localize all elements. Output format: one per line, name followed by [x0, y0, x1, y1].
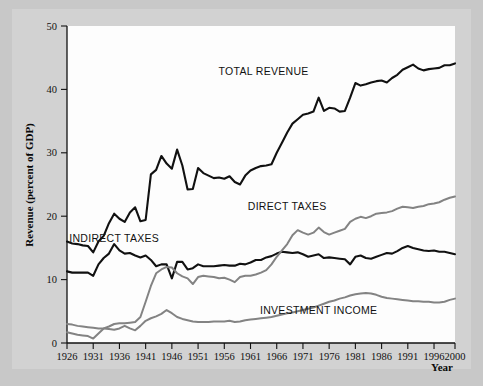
x-tick-label: 1956	[214, 351, 235, 362]
y-tick-label: 0	[52, 338, 57, 349]
x-tick-label: 1986	[371, 351, 392, 362]
series-label-indirect-taxes: INDIRECT TAXES	[69, 232, 159, 244]
x-tick-label: 1951	[188, 351, 209, 362]
series-label-direct-taxes: DIRECT TAXES	[248, 200, 327, 212]
chart-figure-root: 01020304050 1926193119361941194619511956…	[0, 0, 483, 386]
x-tick-labels: 1926193119361941194619511956196119661971…	[57, 351, 466, 362]
y-tick-labels: 01020304050	[47, 21, 58, 349]
x-axis-title: Year	[431, 361, 453, 373]
revenue-line-chart: 01020304050 1926193119361941194619511956…	[0, 0, 483, 386]
y-axis-title: Revenue (percent of GDP)	[23, 123, 36, 247]
series-label-total-revenue: TOTAL REVENUE	[219, 65, 309, 77]
x-tick-label: 1981	[345, 351, 366, 362]
x-tick-label: 1971	[292, 351, 313, 362]
x-tick-label: 1966	[266, 351, 287, 362]
y-tick-label: 20	[47, 211, 58, 222]
x-tick-label: 1941	[135, 351, 156, 362]
x-tick-label: 1991	[397, 351, 418, 362]
y-tick-label: 40	[47, 84, 58, 95]
x-tick-label: 1976	[319, 351, 340, 362]
x-tick-label: 1936	[109, 351, 130, 362]
y-tick-label: 10	[47, 274, 58, 285]
x-tick-label: 1961	[240, 351, 261, 362]
y-tick-label: 50	[47, 21, 58, 32]
y-tick-label: 30	[47, 147, 58, 158]
x-tick-label: 1946	[161, 351, 182, 362]
series-label-investment-income: INVESTMENT INCOME	[260, 304, 378, 316]
x-tick-label: 1926	[57, 351, 78, 362]
x-tick-label: 1931	[83, 351, 104, 362]
